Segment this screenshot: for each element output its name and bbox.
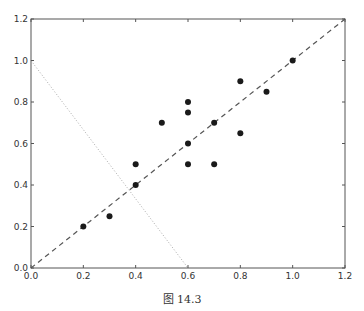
dotted-line — [31, 61, 188, 269]
y-tick-label: 1.0 — [14, 56, 29, 66]
data-point — [264, 89, 270, 95]
data-point — [185, 161, 191, 167]
figure-caption: 图 14.3 — [0, 290, 364, 306]
data-point — [211, 120, 217, 126]
data-point — [211, 161, 217, 167]
y-tick-label: 0.2 — [14, 222, 28, 232]
data-point — [133, 161, 139, 167]
data-point — [185, 141, 191, 147]
x-tick-label: 0.2 — [76, 271, 90, 281]
x-tick-label: 1.0 — [286, 271, 301, 281]
data-point — [185, 109, 191, 115]
data-point — [159, 120, 165, 126]
data-point — [133, 182, 139, 188]
x-tick-label: 0.8 — [233, 271, 248, 281]
y-tick-label: 1.2 — [14, 14, 28, 24]
data-point — [80, 224, 86, 230]
data-point — [107, 213, 113, 219]
y-tick-label: 0.0 — [14, 263, 29, 273]
x-axis-ticks: 0.00.20.40.60.81.01.2 — [24, 19, 352, 281]
x-tick-label: 0.4 — [129, 271, 144, 281]
x-tick-label: 1.2 — [338, 271, 352, 281]
data-point — [185, 99, 191, 105]
y-axis-ticks: 0.00.20.40.60.81.01.2 — [14, 14, 345, 273]
data-point — [290, 58, 296, 64]
y-tick-label: 0.6 — [14, 139, 29, 149]
scatter-chart: 0.00.20.40.60.81.01.2 0.00.20.40.60.81.0… — [0, 0, 364, 311]
x-tick-label: 0.6 — [181, 271, 196, 281]
y-tick-label: 0.8 — [14, 97, 29, 107]
data-point — [237, 130, 243, 136]
data-point — [237, 78, 243, 84]
y-tick-label: 0.4 — [14, 180, 29, 190]
